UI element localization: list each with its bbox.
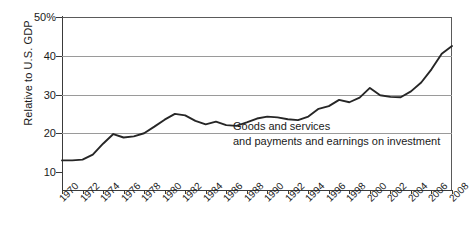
annotation-line-1: Goods and services bbox=[233, 119, 440, 134]
y-tick-mark-30 bbox=[56, 95, 62, 96]
x-tick-label-2002: 2002 bbox=[385, 180, 409, 204]
y-tick-label-20: 20 bbox=[26, 127, 56, 139]
x-tick-label-1990: 1990 bbox=[262, 180, 286, 204]
x-tick-label-2000: 2000 bbox=[365, 180, 389, 204]
y-axis-tick-labels: 1020304050% bbox=[24, 0, 56, 249]
x-tick-label-1982: 1982 bbox=[180, 180, 204, 204]
x-tick-label-1976: 1976 bbox=[119, 180, 143, 204]
y-tick-label-30: 30 bbox=[26, 89, 56, 101]
x-tick-label-1972: 1972 bbox=[78, 180, 102, 204]
x-tick-label-1980: 1980 bbox=[160, 180, 184, 204]
x-tick-label-1998: 1998 bbox=[344, 180, 368, 204]
y-tick-label-50: 50% bbox=[26, 11, 56, 23]
y-tick-mark-40 bbox=[56, 56, 62, 57]
y-tick-mark-10 bbox=[56, 172, 62, 173]
annotation-line-2: and payments and earnings on investment bbox=[233, 134, 440, 149]
y-tick-mark-20 bbox=[56, 133, 62, 134]
x-tick-label-1970: 1970 bbox=[57, 180, 81, 204]
x-tick-label-1996: 1996 bbox=[324, 180, 348, 204]
x-tick-label-1978: 1978 bbox=[139, 180, 163, 204]
x-tick-label-1986: 1986 bbox=[221, 180, 245, 204]
x-tick-label-1992: 1992 bbox=[283, 180, 307, 204]
x-tick-label-1994: 1994 bbox=[303, 180, 327, 204]
x-tick-label-2006: 2006 bbox=[426, 180, 450, 204]
series-annotation: Goods and services and payments and earn… bbox=[233, 119, 440, 149]
x-tick-label-1974: 1974 bbox=[98, 180, 122, 204]
x-tick-label-1988: 1988 bbox=[242, 180, 266, 204]
x-tick-label-2004: 2004 bbox=[406, 180, 430, 204]
y-tick-label-10: 10 bbox=[26, 166, 56, 178]
y-tick-mark-50 bbox=[56, 17, 62, 18]
x-tick-label-1984: 1984 bbox=[201, 180, 225, 204]
y-tick-label-40: 40 bbox=[26, 50, 56, 62]
